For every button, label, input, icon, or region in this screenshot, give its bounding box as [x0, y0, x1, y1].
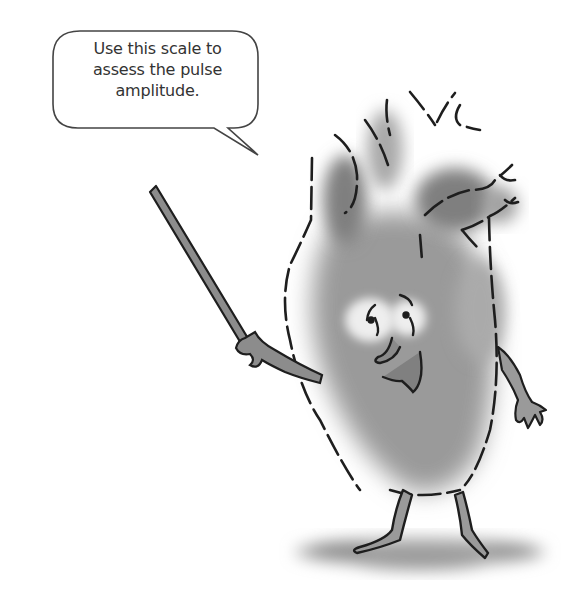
illustration-canvas: Use this scale to assess the pulse ampli… — [0, 0, 582, 605]
right-arm — [498, 347, 546, 428]
speech-line-3: amplitude. — [60, 80, 255, 101]
ground-shadow-icon — [295, 538, 545, 570]
speech-bubble-text: Use this scale to assess the pulse ampli… — [60, 38, 255, 101]
right-eye-icon — [404, 313, 409, 318]
speech-line-1: Use this scale to — [60, 38, 255, 59]
heart-body-shading — [312, 110, 518, 492]
pointer-stick — [150, 186, 322, 383]
speech-line-2: assess the pulse — [60, 59, 255, 80]
left-arm — [236, 332, 322, 383]
left-eye-icon — [369, 318, 374, 323]
